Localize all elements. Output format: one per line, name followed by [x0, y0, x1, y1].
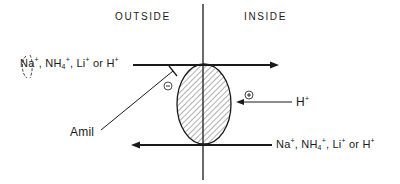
- carrier-ellipse: [177, 64, 231, 144]
- negative-effect-icon: [164, 82, 172, 90]
- efflux-ions-label: Na+, NH4+, Li+ or H+: [276, 138, 375, 150]
- influx-ions-label: Na+, NH4+, Li+ or H+: [20, 57, 119, 69]
- positive-effect-icon: [245, 91, 253, 99]
- activation-arrow: [236, 99, 292, 105]
- exchanger-diagram: [0, 0, 400, 184]
- inside-label: INSIDE: [244, 11, 287, 22]
- inhibition-line: [101, 66, 177, 130]
- proton-activator-label: H+: [296, 95, 309, 109]
- outside-label: OUTSIDE: [115, 11, 171, 22]
- amiloride-label: Amil: [70, 125, 94, 139]
